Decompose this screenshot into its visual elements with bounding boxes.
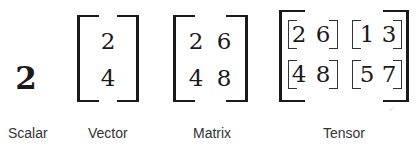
matrix-cell-0-1: 6 — [214, 30, 234, 53]
tensor-cell: 7 — [380, 63, 398, 86]
vector-entry-1: 4 — [98, 67, 118, 90]
tensor-cell: 8 — [314, 63, 332, 86]
tensor-cell: 4 — [290, 63, 308, 86]
tensor-cell: 6 — [314, 23, 332, 46]
tensor-cell: 2 — [290, 23, 308, 46]
tensor-cell: 3 — [380, 23, 398, 46]
matrix-cell-1-0: 4 — [186, 67, 206, 90]
matrix-label: Matrix — [193, 125, 231, 141]
matrix-cell-0-0: 2 — [186, 30, 206, 53]
vector-right-bracket — [117, 15, 139, 102]
vector-entry-0: 2 — [98, 30, 118, 53]
vector-left-bracket — [77, 15, 99, 102]
scalar-label: Scalar — [8, 125, 48, 141]
matrix-cell-1-1: 8 — [214, 67, 234, 90]
tensor-label: Tensor — [323, 125, 365, 141]
scalar-value: 2 — [13, 63, 39, 94]
tensor-cell: 5 — [358, 63, 376, 86]
watermark-mark: ✓ — [388, 104, 396, 114]
vector-label: Vector — [88, 125, 128, 141]
tensor-cell: 1 — [358, 23, 376, 46]
